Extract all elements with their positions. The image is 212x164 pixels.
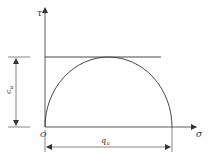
- svg-text:cu: cu: [4, 86, 14, 94]
- cu-label: cu: [4, 86, 14, 94]
- origin-label: O: [40, 130, 47, 139]
- qu-label: qu: [101, 136, 110, 146]
- sigma-label: σ: [196, 129, 203, 139]
- cu-label-sub: u: [8, 86, 14, 90]
- tau-label: τ: [37, 8, 43, 18]
- mohr-circle-diagram: τ σ O cu qu: [0, 0, 212, 164]
- mohr-semicircle: [45, 57, 172, 127]
- qu-label-sub: u: [106, 140, 110, 146]
